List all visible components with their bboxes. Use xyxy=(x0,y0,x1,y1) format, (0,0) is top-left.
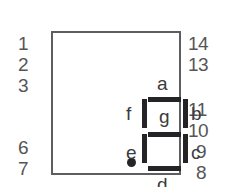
segment-label-a: a xyxy=(157,74,168,93)
pin-column-left-bottom: 6 7 xyxy=(18,137,46,179)
segment-g xyxy=(148,132,181,137)
pin-number-14: 14 xyxy=(188,33,208,54)
segment-label-b: b xyxy=(191,104,202,123)
segment-label-g: g xyxy=(159,107,170,126)
segment-c xyxy=(183,134,188,163)
segment-label-f: f xyxy=(126,104,131,123)
pin-column-left-top: 1 2 3 xyxy=(18,33,46,96)
seven-segment-pinout-diagram: 1 2 3 6 7 14 13 11 10 9 8 xyxy=(0,0,228,187)
pin-number-1: 1 xyxy=(18,33,28,54)
segment-label-e: e xyxy=(126,143,137,162)
pin-number-6: 6 xyxy=(18,137,28,158)
pin-number-8: 8 xyxy=(196,162,206,183)
package-outline: a g d f b e c xyxy=(51,31,181,175)
segment-label-d: d xyxy=(157,175,168,187)
pin-number-3: 3 xyxy=(18,75,28,96)
segment-f xyxy=(142,99,147,128)
pin-column-right-top: 14 13 xyxy=(188,33,222,75)
pin-number-7: 7 xyxy=(18,158,28,179)
segment-d xyxy=(148,166,181,171)
segment-label-c: c xyxy=(191,143,201,162)
segment-e xyxy=(142,134,147,163)
pin-number-13: 13 xyxy=(188,54,208,75)
pin-number-2: 2 xyxy=(18,54,28,75)
segment-a xyxy=(148,97,181,102)
segment-b xyxy=(183,99,188,128)
